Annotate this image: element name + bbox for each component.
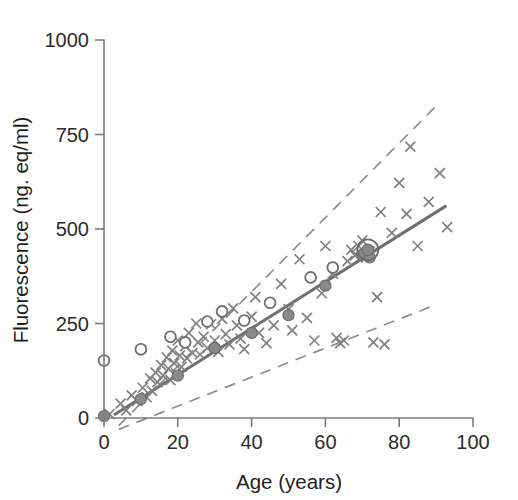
open-circle-marker bbox=[217, 306, 228, 317]
cross-marker bbox=[339, 336, 349, 346]
filled-circle-marker bbox=[320, 280, 331, 291]
cross-marker bbox=[413, 241, 423, 251]
cross-marker bbox=[387, 228, 397, 238]
y-axis-title: Fluorescence (ng. eq/ml) bbox=[9, 117, 32, 344]
y-tick-label: 500 bbox=[56, 218, 89, 240]
cross-marker bbox=[162, 353, 172, 363]
y-axis-ticks-group: 02505007501000 bbox=[45, 29, 105, 429]
filled-circle-marker bbox=[209, 342, 220, 353]
cross-marker bbox=[405, 142, 415, 152]
cross-marker bbox=[287, 325, 297, 335]
filled-circle-marker bbox=[172, 370, 183, 381]
open-circle-marker bbox=[327, 262, 338, 273]
chart-canvas: 02505007501000 020406080100 Age (years) … bbox=[0, 0, 518, 500]
y-tick-label: 0 bbox=[78, 407, 89, 429]
x-axis-ticks-group: 020406080100 bbox=[98, 418, 489, 453]
filled-circle-marker bbox=[283, 310, 294, 321]
scatter-plot-figure: 02505007501000 020406080100 Age (years) … bbox=[0, 0, 518, 500]
y-tick-label: 1000 bbox=[45, 29, 90, 51]
cross-marker bbox=[276, 279, 286, 289]
open-circle-marker bbox=[265, 297, 276, 308]
cross-marker bbox=[309, 336, 319, 346]
cross-marker bbox=[376, 207, 386, 217]
cross-marker bbox=[250, 292, 260, 302]
x-tick-label: 80 bbox=[388, 431, 410, 453]
cross-marker bbox=[269, 320, 279, 330]
cross-marker bbox=[261, 338, 271, 348]
x-tick-label: 20 bbox=[167, 431, 189, 453]
cross-marker bbox=[402, 209, 412, 219]
x-axis-title: Age (years) bbox=[236, 470, 342, 493]
cross-marker bbox=[302, 313, 312, 323]
cross-marker bbox=[435, 168, 445, 178]
cross-marker bbox=[372, 292, 382, 302]
cross-marker bbox=[368, 337, 378, 347]
cross-markers-group bbox=[105, 142, 453, 420]
x-tick-label: 40 bbox=[240, 431, 262, 453]
open-circle-marker bbox=[239, 315, 250, 326]
cross-marker bbox=[239, 344, 249, 354]
cross-marker bbox=[343, 256, 353, 266]
cross-marker bbox=[191, 319, 201, 329]
filled-circle-marker bbox=[246, 327, 257, 338]
cross-marker bbox=[424, 197, 434, 207]
filled-circle-marker bbox=[135, 394, 146, 405]
y-tick-label: 250 bbox=[56, 313, 89, 335]
cross-marker bbox=[295, 254, 305, 264]
cross-marker bbox=[138, 383, 148, 393]
open-circle-marker bbox=[180, 337, 191, 348]
axes-group bbox=[104, 40, 473, 418]
open-circle-marker bbox=[136, 344, 147, 355]
cross-marker bbox=[147, 386, 157, 396]
open-circle-marker bbox=[165, 331, 176, 342]
cross-marker bbox=[379, 339, 389, 349]
cross-marker bbox=[228, 303, 238, 313]
open-circle-marker bbox=[305, 272, 316, 283]
cross-marker bbox=[394, 178, 404, 188]
x-tick-label: 0 bbox=[98, 431, 109, 453]
cross-marker bbox=[331, 333, 341, 343]
cross-marker bbox=[221, 329, 231, 339]
cross-marker bbox=[116, 399, 126, 409]
cross-marker bbox=[442, 222, 452, 232]
open-circle-marker bbox=[202, 316, 213, 327]
cross-marker bbox=[320, 241, 330, 251]
x-tick-label: 60 bbox=[314, 431, 336, 453]
x-tick-label: 100 bbox=[456, 431, 489, 453]
y-tick-label: 750 bbox=[56, 124, 89, 146]
